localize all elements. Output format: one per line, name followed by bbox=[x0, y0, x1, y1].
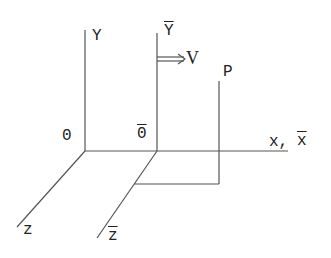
label-x: x, bbox=[269, 134, 288, 150]
label-y: Y bbox=[92, 28, 102, 44]
z-axis bbox=[17, 151, 85, 227]
z-bar-axis bbox=[97, 151, 157, 238]
label-z-bar: z bbox=[108, 228, 118, 244]
coordinate-frames-diagram: Y Y V P 0 0 x, x z z bbox=[0, 0, 331, 258]
label-origin-bar: 0 bbox=[137, 126, 147, 142]
label-v: V bbox=[186, 50, 199, 66]
label-x-bar: x bbox=[297, 133, 307, 149]
label-z: z bbox=[23, 222, 33, 238]
velocity-arrow-head bbox=[178, 54, 185, 64]
label-y-bar: Y bbox=[164, 23, 174, 39]
label-p: P bbox=[223, 64, 233, 80]
label-origin: 0 bbox=[62, 128, 72, 144]
